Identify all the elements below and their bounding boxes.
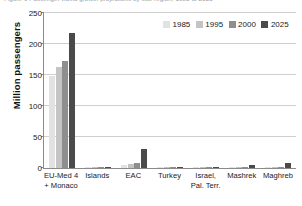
bar [242, 167, 248, 168]
bar [105, 167, 111, 168]
bar [200, 167, 206, 168]
legend-label: 1985 [173, 20, 191, 29]
x-axis-tick-label: Mashrek [224, 170, 260, 204]
bar [56, 67, 62, 168]
x-axis-tick-label: Israel,Pal. Terr. [188, 170, 224, 204]
bar [278, 167, 284, 168]
bar [206, 167, 212, 168]
y-axis-tick-label: 200 [2, 40, 42, 49]
bar-group [260, 13, 296, 168]
legend-label: 2025 [271, 20, 289, 29]
chart-legend: 1985199520002025 [163, 20, 291, 29]
bar [285, 163, 291, 168]
y-axis-tick-label: 250 [2, 9, 42, 18]
bar [69, 33, 75, 168]
plot-area [43, 13, 296, 169]
x-axis-tick-label: EAC [115, 170, 151, 204]
bar [164, 167, 170, 168]
x-axis-tick-label: EU-Med 4+ Monaco [43, 170, 79, 204]
bar [229, 167, 235, 168]
bar-group [44, 13, 80, 168]
bar [193, 167, 199, 168]
legend-swatch [261, 21, 268, 28]
bar [49, 76, 55, 168]
bar [62, 61, 68, 168]
x-axis-tick-label: Turkey [151, 170, 187, 204]
bar [141, 149, 147, 168]
bar [92, 167, 98, 168]
y-axis-tick-label: 150 [2, 71, 42, 80]
y-axis-tick-label: 0 [2, 164, 42, 173]
x-axis-tick-labels: EU-Med 4+ MonacoIslandsEACTurkeyIsrael,P… [43, 170, 296, 204]
legend-entry: 1985 [163, 20, 190, 29]
bar [272, 167, 278, 168]
bar-group [116, 13, 152, 168]
bar [236, 167, 242, 168]
legend-swatch [196, 21, 203, 28]
legend-swatch [229, 21, 236, 28]
legend-label: 1995 [205, 20, 223, 29]
x-axis-tick-label: Islands [79, 170, 115, 204]
bar-groups [44, 13, 296, 168]
legend-entry: 2025 [261, 20, 288, 29]
legend-entry: 2000 [229, 20, 256, 29]
bar-group [152, 13, 188, 168]
y-axis-tick-label: 50 [2, 133, 42, 142]
x-axis-tick-label: Maghreb [260, 170, 296, 204]
bar [85, 167, 91, 168]
bar [177, 167, 183, 168]
bar-group [224, 13, 260, 168]
bar-group [188, 13, 224, 168]
legend-label: 2000 [238, 20, 256, 29]
legend-swatch [163, 21, 170, 28]
bar [265, 167, 271, 168]
bar [213, 167, 219, 168]
bar [170, 167, 176, 168]
bar [98, 167, 104, 168]
bar [157, 167, 163, 168]
bar [134, 163, 140, 168]
bar [128, 164, 134, 168]
bar-chart-figure: Million passengers 050100150200250 EU-Me… [0, 0, 302, 206]
y-axis-tick-label: 100 [2, 102, 42, 111]
legend-entry: 1995 [196, 20, 223, 29]
bar [249, 165, 255, 168]
bar-group [80, 13, 116, 168]
bar [121, 165, 127, 168]
